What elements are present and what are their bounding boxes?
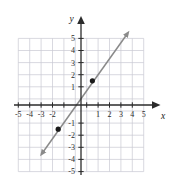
- x-axis-label: x: [160, 111, 166, 121]
- y-tick-label: -2: [68, 131, 75, 140]
- x-tick-label: 5: [142, 110, 146, 119]
- y-tick-label: -3: [68, 143, 75, 152]
- y-tick-label: 5: [71, 34, 75, 43]
- x-tick-label: -5: [15, 110, 22, 119]
- x-tick-label: 3: [119, 110, 123, 119]
- y-tick-label: 4: [71, 46, 75, 55]
- graph-figure: -5 -4 -3 -2 1 2 3 4 5 5 4 3 2 1 -1 -2 -3…: [0, 0, 173, 178]
- x-tick-label: 2: [108, 110, 112, 119]
- x-tick-label: 1: [96, 110, 100, 119]
- y-tick-label: -4: [68, 155, 75, 164]
- x-tick-label: -4: [26, 110, 33, 119]
- y-tick-label: 3: [71, 59, 75, 68]
- y-axis-label: y: [68, 14, 74, 24]
- coordinate-plane: -5 -4 -3 -2 1 2 3 4 5 5 4 3 2 1 -1 -2 -3…: [0, 0, 173, 178]
- x-tick-label: -3: [38, 110, 45, 119]
- y-tick-label: 2: [71, 71, 75, 80]
- data-point: [56, 127, 61, 132]
- data-point: [90, 78, 95, 83]
- x-tick-label: -2: [49, 110, 56, 119]
- y-tick-label: -5: [68, 167, 75, 176]
- y-tick-label: -1: [68, 119, 75, 128]
- y-tick-label: 1: [71, 83, 75, 92]
- x-tick-label: 4: [130, 110, 134, 119]
- x-axis: [14, 101, 161, 109]
